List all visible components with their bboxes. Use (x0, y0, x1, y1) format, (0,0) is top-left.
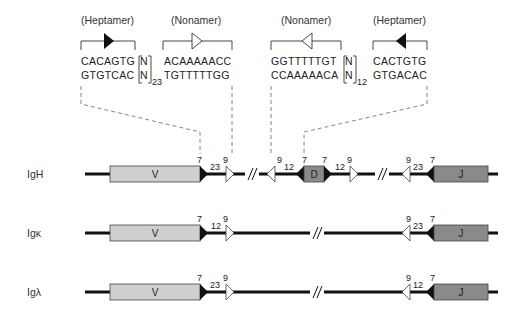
top-panel: (Heptamer) CACAGTG GTGTCAC N N 23 (Nonam… (81, 14, 427, 154)
motif-title: (Heptamer) (373, 14, 426, 26)
strand-bottom: GTGACAC (373, 69, 427, 81)
motif-heptamer-right: (Heptamer) CACTGTG GTGACAC (373, 14, 427, 81)
nonamer-icon (402, 225, 410, 241)
heptamer-icon (200, 166, 208, 182)
rss-diagram: (Heptamer) CACAGTG GTGTCAC N N 23 (Nonam… (0, 0, 519, 316)
heptamer-filled-arrow-icon (396, 33, 406, 49)
nonamer-icon (350, 166, 358, 182)
nonamer-length: 9 (223, 273, 228, 283)
locus-igl: Igλ V 7 23 9 9 12 7 J (27, 273, 498, 300)
nonamer-icon (402, 166, 410, 182)
spacer-length: 12 (284, 162, 294, 172)
nonamer-length: 9 (277, 155, 282, 165)
strand-bottom: TGTTTTTGG (164, 69, 230, 81)
spacer-length: 12 (413, 280, 423, 290)
spacer-12: N N 12 (344, 55, 367, 87)
nonamer-icon (226, 225, 234, 241)
locus-label: Igκ (27, 227, 42, 239)
strand-bottom: CCAAAAACA (271, 69, 338, 81)
spacer-length: 12 (211, 221, 221, 231)
heptamer-length: 7 (430, 214, 435, 224)
strand-bottom: GTGTCAC (81, 69, 135, 81)
nonamer-length: 9 (406, 273, 411, 283)
heptamer-icon (296, 166, 304, 182)
locus-label: IgH (27, 168, 43, 180)
segment-label: V (152, 228, 159, 239)
nonamer-open-arrow-icon (302, 33, 312, 49)
nonamer-icon (402, 284, 410, 300)
nonamer-icon (226, 284, 234, 300)
motif-title: (Heptamer) (81, 14, 134, 26)
heptamer-length: 7 (197, 273, 202, 283)
heptamer-length: 7 (197, 214, 202, 224)
heptamer-length: 7 (322, 155, 327, 165)
heptamer-icon (200, 225, 208, 241)
locus-label: Igλ (27, 286, 42, 298)
segment-label: V (152, 169, 159, 180)
nonamer-length: 9 (223, 155, 228, 165)
heptamer-length: 7 (197, 155, 202, 165)
heptamer-icon (324, 166, 332, 182)
nonamer-open-arrow-icon (192, 33, 202, 49)
spacer-top: N (140, 55, 148, 67)
motif-nonamer-left: (Nonamer) ACAAAAACC TGTTTTTGG (163, 14, 232, 81)
spacer-bottom: N (345, 69, 353, 81)
nonamer-icon (267, 166, 275, 182)
spacer-length: 23 (413, 162, 423, 172)
dashed-connectors (81, 86, 427, 154)
spacer-length: 23 (152, 77, 162, 87)
strand-top: CACTGTG (373, 55, 426, 67)
heptamer-length: 7 (430, 273, 435, 283)
locus-igk: Igκ V 7 12 9 9 23 7 J (27, 214, 498, 241)
motif-title: (Nonamer) (281, 14, 331, 26)
heptamer-icon (426, 166, 434, 182)
heptamer-icon (426, 284, 434, 300)
strand-top: GGTTTTTGT (271, 55, 337, 67)
segment-label: J (459, 287, 464, 298)
nonamer-length: 9 (406, 155, 411, 165)
motif-heptamer-left: (Heptamer) CACAGTG GTGTCAC (81, 14, 135, 81)
heptamer-length: 7 (302, 155, 307, 165)
spacer-length: 12 (335, 162, 345, 172)
spacer-length: 23 (210, 280, 220, 290)
spacer-length: 12 (357, 77, 367, 87)
spacer-length: 23 (210, 162, 220, 172)
heptamer-length: 7 (430, 155, 435, 165)
spacer-length: 23 (413, 221, 423, 231)
nonamer-length: 9 (347, 155, 352, 165)
segment-label: V (152, 287, 159, 298)
strand-top: CACAGTG (81, 55, 135, 67)
locus-igh: IgH V 7 23 9 9 12 7 D 7 12 9 9 (27, 155, 498, 182)
segment-label: J (459, 228, 464, 239)
segment-label: J (459, 169, 464, 180)
heptamer-icon (426, 225, 434, 241)
strand-top: ACAAAAACC (164, 55, 232, 67)
nonamer-icon (226, 166, 234, 182)
heptamer-icon (200, 284, 208, 300)
spacer-top: N (345, 55, 353, 67)
nonamer-length: 9 (406, 214, 411, 224)
motif-title: (Nonamer) (171, 14, 221, 26)
nonamer-length: 9 (223, 214, 228, 224)
segment-label: D (310, 169, 317, 180)
heptamer-filled-arrow-icon (104, 33, 114, 49)
spacer-bottom: N (140, 69, 148, 81)
motif-nonamer-right: (Nonamer) GGTTTTTGT CCAAAAACA (271, 14, 341, 81)
spacer-23: N N 23 (139, 55, 162, 87)
